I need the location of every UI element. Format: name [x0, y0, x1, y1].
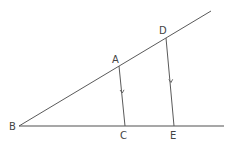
parallel-arrow-icon-de	[169, 79, 173, 82]
label-e: E	[170, 130, 176, 141]
label-b: B	[9, 121, 16, 132]
label-a: A	[112, 54, 119, 65]
geometry-diagram: B A C D E	[0, 0, 240, 143]
label-c: C	[120, 130, 127, 141]
segment-de	[166, 38, 174, 126]
segment-ac	[119, 66, 125, 126]
label-d: D	[159, 25, 167, 36]
ray-bd	[19, 11, 211, 126]
